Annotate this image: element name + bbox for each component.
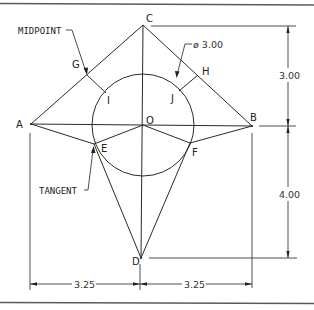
label-H: H xyxy=(202,66,210,77)
label-B: B xyxy=(250,112,257,123)
arrow-left-icon xyxy=(30,282,37,285)
line-AE xyxy=(31,124,94,144)
dim-text-horizontal-left: 3.25 xyxy=(74,279,95,290)
bottom-border xyxy=(0,303,314,304)
line-CD xyxy=(141,25,143,258)
arrow-right-icon xyxy=(245,282,252,285)
dim-text-vertical-top: 3.00 xyxy=(279,70,300,81)
geometry-drawing: C A B D O E F G H I J MIDPOINT TANGENT ø… xyxy=(0,0,314,310)
line-ED xyxy=(94,144,141,258)
label-E: E xyxy=(101,143,107,154)
dim-text-vertical-bottom: 4.00 xyxy=(279,189,300,200)
label-A: A xyxy=(16,119,23,130)
arrow-up-icon xyxy=(286,126,289,133)
line-EO xyxy=(94,125,143,144)
point-marker-D xyxy=(140,257,142,259)
label-G: G xyxy=(72,59,80,70)
line-FB xyxy=(190,126,252,143)
arrow-down-icon xyxy=(286,119,289,126)
label-D: D xyxy=(132,256,140,267)
diameter-leader xyxy=(177,44,192,75)
label-F: F xyxy=(192,147,198,158)
arrow-up-icon xyxy=(286,26,289,33)
label-J: J xyxy=(170,93,174,104)
arrow-down-icon xyxy=(286,251,289,258)
point-marker-A xyxy=(30,123,32,125)
line-HJ xyxy=(179,75,198,91)
line-FD xyxy=(141,143,190,258)
top-border xyxy=(0,4,314,6)
tangent-leader xyxy=(84,150,93,190)
diameter-note: ø 3.00 xyxy=(193,39,223,50)
tangent-note: TANGENT xyxy=(39,186,78,196)
diameter-arrow-icon xyxy=(175,71,180,78)
midpoint-note: MIDPOINT xyxy=(18,26,62,36)
label-O: O xyxy=(146,115,154,126)
label-I: I xyxy=(107,95,110,106)
line-OF xyxy=(143,125,190,143)
arrow-right-icon xyxy=(133,282,140,285)
line-GI xyxy=(87,75,106,93)
dim-text-horizontal-right: 3.25 xyxy=(184,279,205,290)
point-marker-B xyxy=(251,125,253,127)
label-C: C xyxy=(146,13,153,24)
arrow-left-icon xyxy=(140,282,147,285)
